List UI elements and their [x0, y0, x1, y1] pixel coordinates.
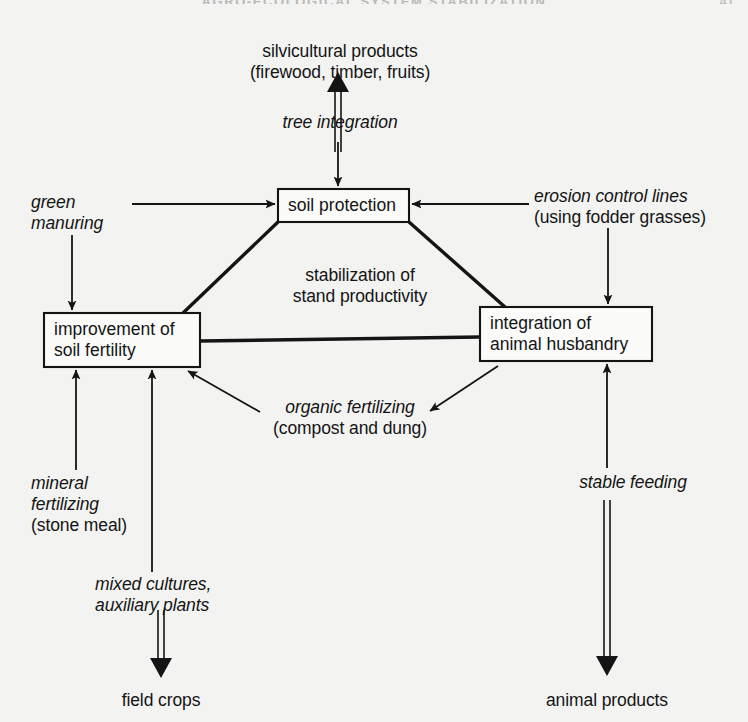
- mineral-fertilizing-line1: mineral: [31, 473, 127, 494]
- label-field-crops: field crops: [122, 690, 201, 711]
- soil-fertility-line2: soil fertility: [54, 340, 175, 361]
- double-arrow-field-crops: [150, 610, 172, 678]
- connector-soilprot-to-fertility: [183, 222, 278, 313]
- label-mixed-cultures: mixed cultures, auxiliary plants: [95, 574, 211, 616]
- connector-fertility-to-husbandry: [200, 337, 480, 341]
- silvicultural-products-line2: (firewood, timber, fruits): [250, 62, 430, 83]
- box-label-animal-husbandry: integration of animal husbandry: [490, 313, 628, 355]
- stabilization-line2: stand productivity: [293, 286, 427, 307]
- animal-husbandry-line2: animal husbandry: [490, 334, 628, 355]
- organic-fertilizing-line2: (compost and dung): [273, 418, 427, 439]
- box-label-soil-protection: soil protection: [288, 195, 396, 216]
- label-stabilization: stabilization of stand productivity: [293, 265, 427, 307]
- organic-fertilizing-line1: organic fertilizing: [273, 397, 427, 418]
- soil-fertility-line1: improvement of: [54, 319, 175, 340]
- animal-husbandry-line1: integration of: [490, 313, 628, 334]
- label-animal-products: animal products: [546, 690, 668, 711]
- label-organic-fertilizing: organic fertilizing (compost and dung): [273, 397, 427, 439]
- erosion-control-line1: erosion control lines: [534, 186, 706, 207]
- label-stable-feeding: stable feeding: [579, 472, 687, 493]
- mineral-fertilizing-line2: fertilizing: [31, 494, 127, 515]
- green-manuring-line1: green: [31, 192, 103, 213]
- box-label-soil-fertility: improvement of soil fertility: [54, 319, 175, 361]
- green-manuring-line2: manuring: [31, 213, 103, 234]
- label-erosion-control-lines: erosion control lines (using fodder gras…: [534, 186, 706, 228]
- mixed-cultures-line1: mixed cultures,: [95, 574, 211, 595]
- erosion-control-line2: (using fodder grasses): [534, 207, 706, 228]
- label-mineral-fertilizing: mineral fertilizing (stone meal): [31, 473, 127, 536]
- tree-integration-text: tree integration: [282, 112, 397, 132]
- field-crops-text: field crops: [122, 690, 201, 711]
- double-arrow-animal-products: [596, 500, 618, 676]
- silvicultural-products-line1: silvicultural products: [250, 41, 430, 62]
- mixed-cultures-line2: auxiliary plants: [95, 595, 211, 616]
- soil-protection-text: soil protection: [288, 195, 396, 215]
- stable-feeding-text: stable feeding: [579, 472, 687, 492]
- mineral-fertilizing-line3: (stone meal): [31, 515, 127, 536]
- arrow-husbandry-to-organic: [430, 366, 498, 411]
- diagram-page: AGRO-ECOLOGICAL SYSTEM STABILIZATION 41: [0, 0, 748, 722]
- stabilization-line1: stabilization of: [293, 265, 427, 286]
- label-tree-integration: tree integration: [282, 112, 397, 133]
- label-green-manuring: green manuring: [31, 192, 103, 234]
- arrow-organic-to-fertility: [188, 371, 260, 412]
- label-silvicultural-products: silvicultural products (firewood, timber…: [250, 41, 430, 83]
- animal-products-text: animal products: [546, 690, 668, 711]
